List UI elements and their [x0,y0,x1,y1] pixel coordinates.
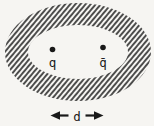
figure-canvas: q q̄ d [0,0,154,126]
separation-label: d [73,109,81,124]
quark-label: q [49,55,57,70]
antiquark-label: q̄ [99,55,107,70]
antiquark-dot [100,45,106,51]
quark-dot [50,47,56,53]
meson-diagram: q q̄ d [0,0,154,126]
